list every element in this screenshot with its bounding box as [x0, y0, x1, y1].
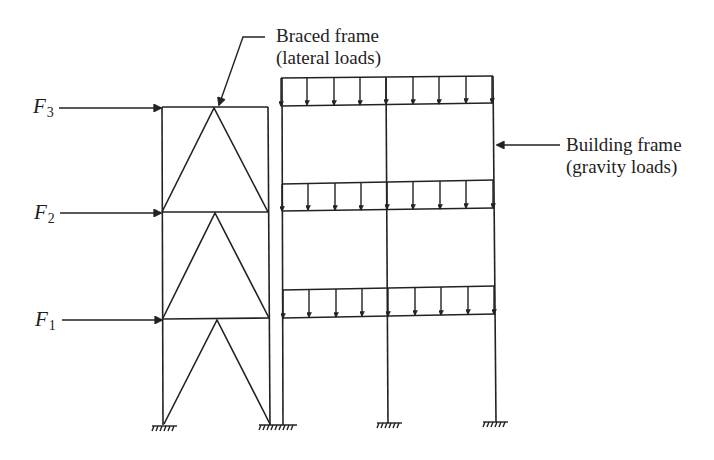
lateral-forces	[59, 108, 162, 320]
force-symbol: F	[33, 94, 46, 118]
building-frame	[281, 76, 496, 425]
building-frame-column-middle	[386, 78, 388, 423]
force-subscript: 1	[49, 318, 56, 333]
force-subscript: 3	[47, 105, 54, 120]
force-symbol: F	[34, 200, 47, 224]
load-strip-top-floor-1	[283, 286, 495, 290]
gravity-loads-floor-2	[282, 180, 493, 211]
fixed-support-2	[259, 425, 297, 430]
gravity-loads-floor-1	[283, 286, 494, 318]
braced-frame-callout: Braced frame (lateral loads)	[276, 25, 381, 69]
building-frame-column-left	[282, 78, 283, 425]
force-label-f3: F3	[33, 96, 54, 120]
building-frame-beam-floor-2	[282, 208, 494, 211]
fixed-support-3	[377, 423, 402, 428]
load-strip-top-roof	[281, 76, 493, 78]
building-frame-beam-roof	[281, 103, 493, 106]
load-strip-top-floor-2	[282, 180, 494, 184]
braced-frame-callout-line1: Braced frame	[276, 25, 381, 47]
gravity-loads-roof	[281, 76, 492, 106]
fixed-support-4	[483, 422, 508, 427]
building-frame-callout-line1: Building frame	[566, 134, 682, 156]
chevron-brace-story-2	[163, 213, 269, 318]
structural-diagram	[0, 0, 714, 460]
building-frame-beam-floor-1	[283, 314, 495, 318]
braced-frame-beam-1	[163, 318, 269, 319]
braced-frame-callout-line2: (lateral loads)	[276, 47, 381, 69]
braced-frame	[162, 107, 270, 425]
force-label-f2: F2	[34, 202, 55, 226]
building-frame-column-right	[493, 76, 496, 422]
force-subscript: 2	[48, 211, 55, 226]
chevron-brace-story-1	[164, 320, 270, 424]
braced-frame-pointer-arrow	[219, 37, 265, 105]
building-frame-callout-line2: (gravity loads)	[566, 156, 682, 178]
braced-frame-right-column	[268, 107, 270, 425]
chevron-brace-story-3	[162, 108, 268, 212]
braced-frame-left-column	[162, 107, 163, 425]
force-label-f1: F1	[35, 309, 56, 333]
fixed-support-1	[152, 426, 177, 431]
building-frame-callout: Building frame (gravity loads)	[566, 134, 682, 178]
force-symbol: F	[35, 307, 48, 331]
